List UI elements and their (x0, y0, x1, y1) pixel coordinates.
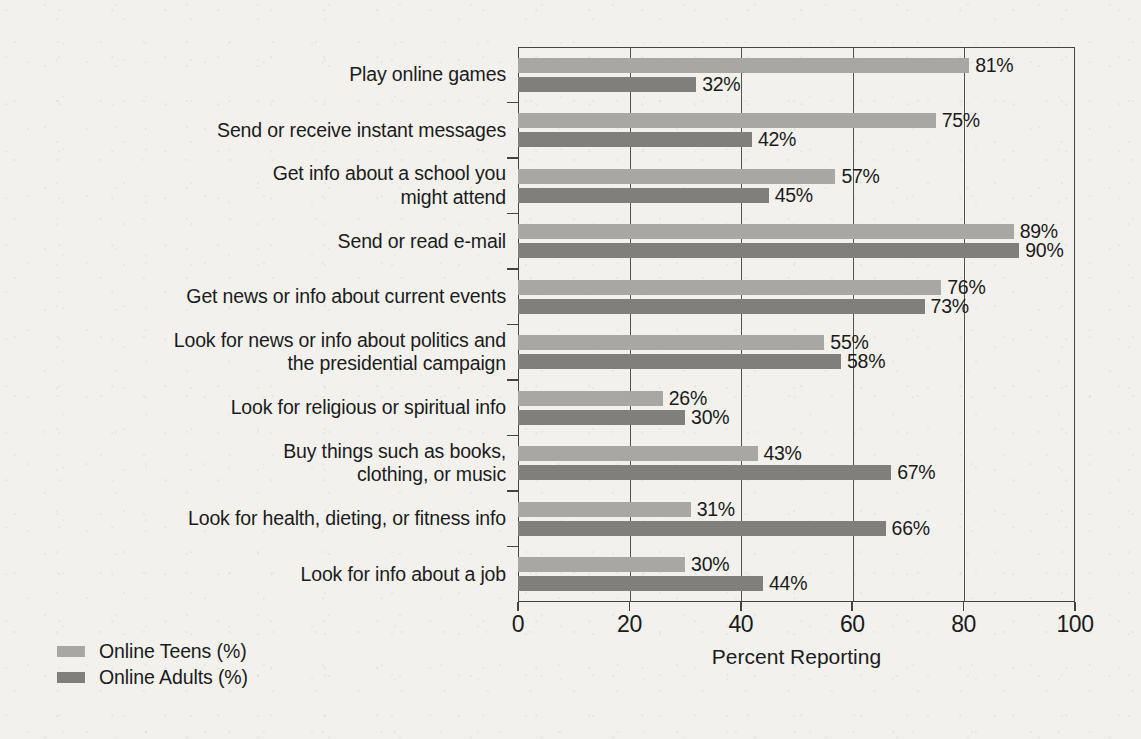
bar-teens (518, 113, 936, 128)
bar-adults (518, 188, 769, 203)
category-label-text: Send or read e-mail (338, 230, 506, 254)
x-axis-tick-mark (517, 602, 519, 611)
bar-adults (518, 465, 891, 480)
chart-row: Get info about a school you might attend… (518, 158, 1118, 214)
y-axis-tick (507, 268, 518, 270)
legend-item-online-teens: Online Teens (%) (57, 638, 248, 664)
bar-adults (518, 354, 841, 369)
bar-teens (518, 446, 758, 461)
bar-teens (518, 169, 835, 184)
x-axis-tick-label: 40 (729, 611, 754, 638)
chart-row: Send or read e-mail89%90% (518, 214, 1118, 270)
x-axis-tick-label: 100 (1057, 611, 1094, 638)
y-axis-tick (507, 379, 518, 381)
x-axis-tick-label: 0 (512, 611, 524, 638)
category-label: Get info about a school you might attend (6, 158, 506, 214)
bar-teens (518, 502, 691, 517)
category-label-text: Get info about a school you might attend (273, 162, 506, 209)
chart-row: Look for religious or spiritual info26%3… (518, 380, 1118, 436)
category-label: Look for news or info about politics and… (6, 325, 506, 381)
bar-value-label: 75% (942, 111, 980, 131)
bar-value-label: 73% (931, 297, 969, 317)
bar-value-label: 31% (697, 500, 735, 520)
bar-value-label: 30% (691, 555, 729, 575)
category-label: Look for religious or spiritual info (6, 380, 506, 436)
x-axis-tick-mark (963, 602, 965, 611)
x-axis-tick-label: 60 (840, 611, 865, 638)
chart-row: Get news or info about current events76%… (518, 269, 1118, 325)
bar-adults (518, 132, 752, 147)
legend-swatch-icon-adults (57, 672, 85, 683)
category-label-text: Look for news or info about politics and… (174, 329, 506, 376)
chart-row: Buy things such as books, clothing, or m… (518, 436, 1118, 492)
category-label: Buy things such as books, clothing, or m… (6, 436, 506, 492)
y-axis-tick (507, 213, 518, 215)
y-axis-tick (507, 490, 518, 492)
legend-label-adults: Online Adults (%) (99, 666, 248, 688)
legend-swatch-icon-teens (57, 646, 85, 657)
bar-adults (518, 243, 1019, 258)
category-label-text: Look for info about a job (301, 563, 507, 587)
y-axis-tick (507, 157, 518, 159)
category-label-text: Send or receive instant messages (217, 119, 506, 143)
x-axis-tick-mark (740, 602, 742, 611)
x-axis-tick-label: 20 (617, 611, 642, 638)
category-label-text: Get news or info about current events (186, 285, 506, 309)
bar-teens (518, 335, 824, 350)
bar-adults (518, 576, 763, 591)
y-axis-tick (507, 546, 518, 548)
bar-value-label: 32% (702, 75, 740, 95)
chart-row: Look for health, dieting, or fitness inf… (518, 491, 1118, 547)
bar-teens (518, 391, 663, 406)
bar-teens (518, 557, 685, 572)
bar-value-label: 30% (691, 408, 729, 428)
chart-row: Send or receive instant messages75%42% (518, 103, 1118, 159)
category-label: Send or read e-mail (6, 214, 506, 270)
x-axis-tick-mark (851, 602, 853, 611)
bar-adults (518, 299, 925, 314)
x-axis-tick-mark (1074, 602, 1076, 611)
x-axis-tick-label: 80 (951, 611, 976, 638)
bar-adults (518, 77, 696, 92)
horizontal-bar-chart: Play online games81%32%Send or receive i… (0, 0, 1141, 739)
category-label-text: Buy things such as books, clothing, or m… (283, 440, 506, 487)
bar-value-label: 90% (1025, 241, 1063, 261)
category-label: Play online games (6, 47, 506, 103)
bar-teens (518, 280, 941, 295)
bar-value-label: 66% (892, 519, 930, 539)
bar-value-label: 57% (841, 167, 879, 187)
y-axis-tick (507, 324, 518, 326)
legend-label-teens: Online Teens (%) (99, 640, 247, 662)
x-axis-tick-mark (629, 602, 631, 611)
bar-value-label: 45% (775, 186, 813, 206)
category-label: Look for info about a job (6, 547, 506, 603)
bar-teens (518, 58, 969, 73)
chart-row: Play online games81%32% (518, 47, 1118, 103)
category-label: Get news or info about current events (6, 269, 506, 325)
bar-value-label: 42% (758, 130, 796, 150)
bar-adults (518, 521, 886, 536)
category-label-text: Look for health, dieting, or fitness inf… (188, 507, 506, 531)
y-axis-tick (507, 102, 518, 104)
category-label-text: Look for religious or spiritual info (231, 396, 506, 420)
bar-value-label: 43% (764, 444, 802, 464)
x-axis: 020406080100 (518, 602, 1075, 614)
chart-legend: Online Teens (%) Online Adults (%) (57, 638, 248, 690)
bar-value-label: 44% (769, 574, 807, 594)
bar-value-label: 58% (847, 352, 885, 372)
chart-row: Look for news or info about politics and… (518, 325, 1118, 381)
category-label: Look for health, dieting, or fitness inf… (6, 491, 506, 547)
bar-teens (518, 224, 1014, 239)
bar-value-label: 81% (975, 56, 1013, 76)
chart-row: Look for info about a job30%44% (518, 547, 1118, 603)
bar-adults (518, 410, 685, 425)
category-label: Send or receive instant messages (6, 103, 506, 159)
legend-item-online-adults: Online Adults (%) (57, 664, 248, 690)
bar-value-label: 67% (897, 463, 935, 483)
category-label-text: Play online games (349, 63, 506, 87)
x-axis-title: Percent Reporting (518, 645, 1075, 669)
y-axis-tick (507, 435, 518, 437)
